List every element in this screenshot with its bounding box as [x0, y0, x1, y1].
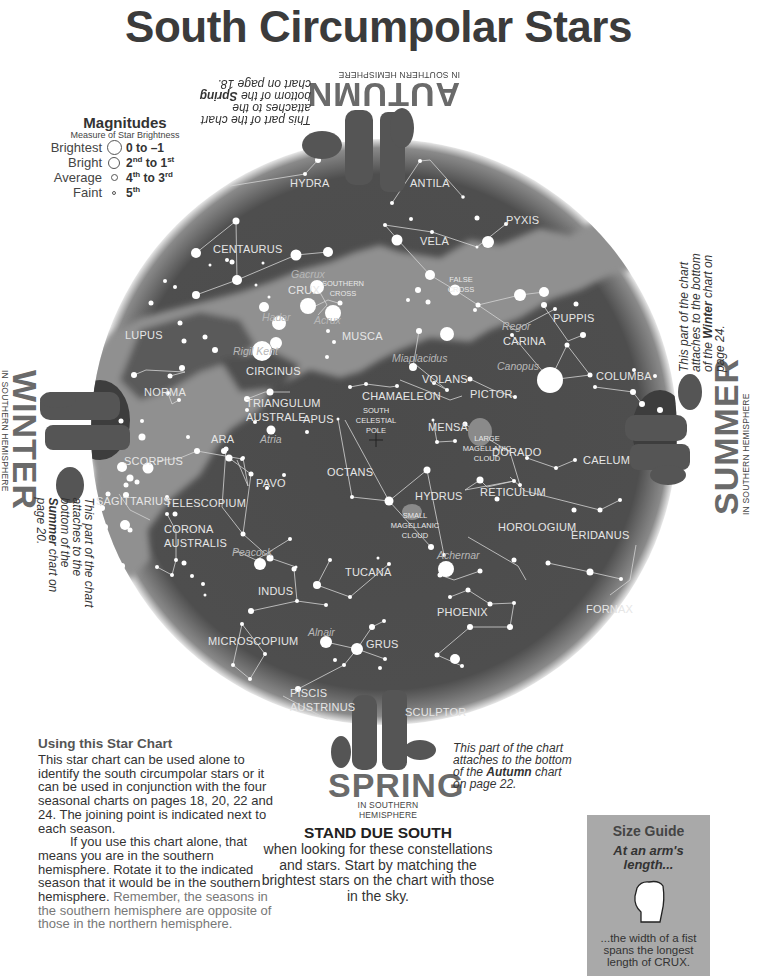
constellation-label: HYDRUS — [415, 490, 463, 502]
constellation-label: TELESCOPIUM — [165, 497, 246, 509]
spring-block: SPRING IN SOUTHERN HEMISPHERE — [328, 770, 448, 820]
using-this-chart-section: Using this Star Chart This star chart ca… — [38, 736, 278, 931]
region-label: MAGELLANIC — [463, 444, 512, 453]
constellation-label: OCTANS — [327, 466, 373, 478]
constellation-label: APUS — [303, 413, 334, 425]
constellation-label: VOLANS — [422, 373, 468, 385]
spring-note: This part of the chart attaches to the b… — [453, 742, 578, 790]
star-name-label: Atria — [259, 433, 282, 445]
region-label: CROSS — [330, 289, 357, 298]
size-guide-italic: At an arm's length... — [587, 844, 710, 872]
constellation-label: CRUX — [288, 284, 320, 296]
region-label: LARGE — [474, 434, 499, 443]
using-heading: Using this Star Chart — [38, 736, 278, 751]
constellation-label: COLUMBA — [596, 370, 652, 382]
winter-note: This part of the chart attaches to the b… — [35, 498, 95, 613]
stand-body: when looking for these constellations an… — [258, 842, 498, 904]
constellation-label: PISCIS — [290, 687, 327, 699]
autumn-title: AUTUMN — [300, 80, 460, 110]
constellation-label: ARA — [211, 433, 235, 445]
constellation-label: INDUS — [258, 585, 293, 597]
constellation-label: LUPUS — [125, 329, 163, 341]
constellation-label: CARINA — [503, 335, 546, 347]
size-guide-box: Size Guide At an arm's length... ...the … — [587, 815, 710, 976]
size-guide-heading: Size Guide — [587, 823, 710, 839]
magnitudes-heading: Magnitudes — [50, 114, 200, 131]
average-circle-icon — [111, 174, 118, 181]
region-label: CLOUD — [474, 454, 501, 463]
region-label: MAGELLANIC — [391, 521, 440, 530]
magnitude-row-average: Average 4th to 3rd — [30, 170, 200, 185]
constellation-label: TUCANA — [345, 566, 392, 578]
magnitudes-legend: Magnitudes Measure of Star Brightness Br… — [30, 114, 200, 200]
stand-due-south-section: STAND DUE SOUTH when looking for these c… — [258, 824, 498, 904]
constellation-label: AUSTRALIS — [164, 537, 227, 549]
using-paragraph-2: If you use this chart alone, that means … — [38, 835, 278, 931]
star-name-label: Miaplacidus — [392, 352, 448, 364]
autumn-block: AUTUMN IN SOUTHERN HEMISPHERE — [300, 70, 460, 110]
summer-block: SUMMER IN SOUTHERN HEMISPHERE — [711, 365, 751, 515]
constellation-label: SCORPIUS — [124, 455, 183, 467]
winter-title: WINTER — [10, 370, 40, 510]
star-name-label: Regor — [502, 320, 531, 332]
magnitudes-subheading: Measure of Star Brightness — [50, 130, 200, 140]
constellation-label: CHAMAELEON — [362, 390, 441, 402]
fist-icon — [629, 878, 669, 924]
region-label: CROSS — [448, 285, 475, 294]
region-label: POLE — [366, 426, 386, 435]
constellation-label: VELA — [420, 235, 449, 247]
star-name-label: Hadar — [262, 311, 291, 323]
star-name-label: Alnair — [307, 626, 335, 638]
constellation-label: ANTILA — [410, 177, 450, 189]
constellation-label: PICTOR — [470, 388, 513, 400]
star-name-label: Gacrux — [291, 268, 326, 280]
constellation-label: SAGITTARIUS — [96, 495, 171, 507]
magnitude-row-brightest: Brightest 0 to –1 — [30, 140, 200, 155]
magnitude-row-faint: Faint 5th — [30, 185, 200, 200]
summer-note: This part of the chart attaches to the b… — [678, 252, 726, 372]
star-name-label: Rigil Kent — [233, 345, 279, 357]
constellation-label: PAVO — [256, 477, 286, 489]
constellation-label: MICROSCOPIUM — [208, 635, 298, 647]
constellation-label: HOROLOGIUM — [498, 521, 576, 533]
constellation-label: NORMA — [144, 386, 186, 398]
region-label: CLOUD — [402, 531, 429, 540]
constellation-label: MUSCA — [342, 330, 383, 342]
autumn-note: This part of the chart attaches to the b… — [196, 78, 311, 126]
constellation-label: CORONA — [164, 523, 214, 535]
constellation-label: AUSTRINUS — [290, 701, 355, 713]
region-label: SMALL — [403, 511, 428, 520]
bright-circle-icon — [108, 157, 120, 169]
constellation-label: CIRCINUS — [246, 365, 301, 377]
constellation-label: ERIDANUS — [571, 529, 629, 541]
constellation-label: PHOENIX — [437, 606, 488, 618]
constellation-label: CENTAURUS — [213, 243, 282, 255]
using-paragraph-1: This star chart can be used alone to ide… — [38, 753, 278, 835]
constellation-label: FORNAX — [586, 603, 634, 615]
star-name-label: Canopus — [497, 360, 540, 372]
size-guide-body: ...the width of a fist spans the longest… — [587, 932, 710, 968]
constellation-label: SCULPTOR — [405, 706, 466, 718]
constellation-label: PYXIS — [506, 214, 539, 226]
winter-subtitle: IN SOUTHERN HEMISPHERE — [0, 370, 10, 510]
brightest-circle-icon — [107, 140, 122, 155]
region-label: SOUTHERN — [322, 279, 364, 288]
faint-circle-icon — [112, 191, 116, 195]
region-label: CELESTIAL — [356, 416, 396, 425]
star-name-label: Peacock — [232, 546, 273, 558]
region-label: SOUTH — [363, 406, 389, 415]
constellation-label: PUPPIS — [553, 312, 595, 324]
constellation-label: RETICULUM — [480, 486, 546, 498]
star-name-label: Achernar — [436, 549, 480, 561]
stand-heading: STAND DUE SOUTH — [258, 824, 498, 842]
spring-title: SPRING — [328, 770, 448, 800]
constellation-label: AUSTRALE — [246, 411, 306, 423]
region-label: FALSE — [449, 275, 472, 284]
constellation-label: TRIANGULUM — [246, 397, 321, 409]
constellation-label: MENSA — [428, 421, 469, 433]
winter-block: WINTER IN SOUTHERN HEMISPHERE — [0, 370, 40, 510]
constellation-label: CAELUM — [583, 454, 630, 466]
star-name-label: Acrux — [313, 314, 342, 326]
summer-title: SUMMER — [711, 365, 741, 515]
constellation-label: GRUS — [366, 638, 399, 650]
